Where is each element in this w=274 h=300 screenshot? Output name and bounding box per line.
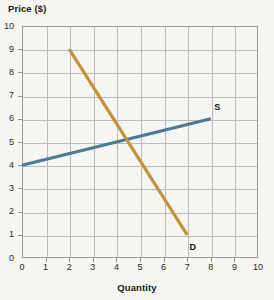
x-axis-tick-label: 2: [59, 263, 79, 272]
series-layer: [22, 26, 258, 258]
y-axis-tick-label: 9: [0, 45, 14, 54]
x-axis-tick-label: 3: [83, 263, 103, 272]
y-axis-tick-mark: [18, 188, 22, 189]
y-axis-tick-mark: [18, 96, 22, 97]
x-axis-tick-label: 5: [130, 263, 150, 272]
y-axis-tick-label: 3: [0, 184, 14, 193]
y-axis-tick-mark: [18, 72, 22, 73]
x-axis-tick-mark: [140, 258, 141, 262]
x-axis-tick-label: 4: [106, 263, 126, 272]
x-axis-tick-label: 1: [36, 263, 56, 272]
x-axis-tick-mark: [164, 258, 165, 262]
x-axis-tick-label: 10: [248, 263, 268, 272]
y-axis-tick-mark: [18, 212, 22, 213]
x-axis-tick-label: 0: [12, 263, 32, 272]
x-axis-tick-mark: [46, 258, 47, 262]
series-label-s: S: [214, 103, 220, 112]
y-axis-tick-label: 0: [0, 254, 14, 263]
y-axis-tick-label: 5: [0, 138, 14, 147]
y-axis-title: Price ($): [8, 3, 46, 14]
y-axis-tick-label: 7: [0, 91, 14, 100]
y-axis-tick-label: 2: [0, 207, 14, 216]
y-axis-tick-label: 4: [0, 161, 14, 170]
supply-demand-chart: Price ($) 012345678910012345678910 SD Qu…: [0, 0, 274, 300]
y-axis-tick-label: 1: [0, 230, 14, 239]
y-axis-tick-label: 6: [0, 114, 14, 123]
x-axis-tick-mark: [211, 258, 212, 262]
x-axis-tick-mark: [187, 258, 188, 262]
x-axis-tick-mark: [116, 258, 117, 262]
y-axis-tick-label: 10: [0, 22, 14, 31]
y-axis-tick-mark: [18, 119, 22, 120]
series-label-d: D: [190, 243, 197, 252]
series-line-d: [69, 49, 187, 235]
y-axis-tick-mark: [18, 49, 22, 50]
x-axis-tick-label: 7: [177, 263, 197, 272]
y-axis-tick-mark: [18, 235, 22, 236]
x-axis-tick-mark: [69, 258, 70, 262]
x-axis-tick-label: 9: [224, 263, 244, 272]
y-axis-tick-mark: [18, 142, 22, 143]
y-axis-tick-label: 8: [0, 68, 14, 77]
x-axis-tick-label: 6: [154, 263, 174, 272]
y-axis-tick-mark: [18, 165, 22, 166]
x-axis-tick-mark: [93, 258, 94, 262]
x-axis-tick-label: 8: [201, 263, 221, 272]
x-axis-tick-mark: [234, 258, 235, 262]
x-axis-title: Quantity: [0, 282, 274, 293]
